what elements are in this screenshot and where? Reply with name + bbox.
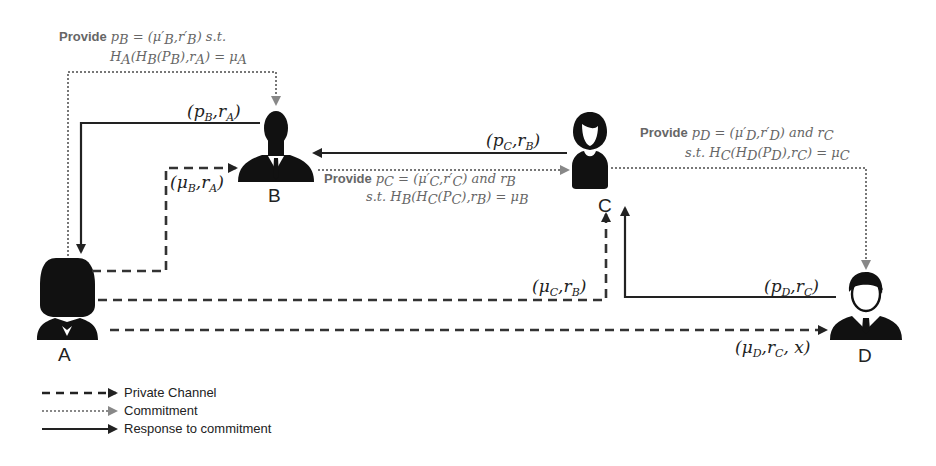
- actor-b-label: B: [268, 185, 281, 206]
- legend: Private Channel Commitment Response to c…: [42, 385, 272, 436]
- svg-text:Private Channel: Private Channel: [124, 385, 217, 400]
- response-d-to-c: [625, 208, 836, 297]
- svg-text:s.t. HB(HC(PC),rB) = μB: s.t. HB(HC(PC),rB) = μB: [366, 189, 529, 207]
- commitment-note-a-to-b: ProvidepB = (μ′B,r′B) s.t. HA(HB(PB),rA)…: [59, 29, 247, 67]
- svg-text:s.t. HC(HD(PD),rC) = μC: s.t. HC(HD(PD),rC) = μC: [685, 145, 850, 163]
- svg-text:Commitment: Commitment: [124, 403, 198, 418]
- legend-item-response: Response to commitment: [42, 421, 272, 436]
- person-icon: [572, 112, 608, 189]
- label-pc-rb: (pC,rB): [486, 130, 540, 153]
- commitment-note-b-to-c: ProvidepC = (μ′C,r′C) and rB s.t. HB(HC(…: [324, 171, 529, 207]
- legend-item-private-channel: Private Channel: [42, 385, 217, 400]
- label-muc-rb: (μC,rB): [532, 276, 586, 299]
- commitment-c-to-d: [611, 168, 866, 268]
- actor-d-label: D: [858, 345, 872, 366]
- businessman-icon: [238, 111, 314, 182]
- woman-icon: [37, 258, 98, 340]
- svg-text:ProvidepD = (μ′D,r′D) and rC: ProvidepD = (μ′D,r′D) and rC: [640, 125, 834, 143]
- actor-a-label: A: [58, 344, 71, 365]
- actor-b: B: [238, 111, 314, 206]
- private-a-to-c: [98, 214, 606, 300]
- svg-text:Response to commitment: Response to commitment: [124, 421, 272, 436]
- actor-d: D: [830, 272, 902, 366]
- commitment-a-to-b: [68, 72, 276, 256]
- label-mud-rc-x: (μD,rC, x): [735, 337, 811, 360]
- commitment-note-c-to-d: ProvidepD = (μ′D,r′D) and rC s.t. HC(HD(…: [640, 125, 850, 163]
- businessman-icon: [830, 272, 902, 340]
- label-pb-ra: (pB,rA): [187, 101, 241, 124]
- actor-a: A: [37, 258, 98, 365]
- actor-c-label: C: [598, 195, 612, 216]
- label-pd-rc: (pD,rC): [764, 276, 819, 299]
- svg-text:ProvidepB = (μ′B,r′B) s.t.: ProvidepB = (μ′B,r′B) s.t.: [59, 29, 226, 47]
- svg-text:HA(HB(PB),rA) = μA: HA(HB(PB),rA) = μA: [109, 49, 247, 67]
- actor-c: C: [572, 112, 612, 216]
- protocol-diagram: A B C D: [0, 0, 936, 466]
- legend-item-commitment: Commitment: [42, 403, 198, 418]
- label-mub-ra: (μB,rA): [170, 172, 224, 195]
- svg-text:ProvidepC = (μ′C,r′C) and rB: ProvidepC = (μ′C,r′C) and rB: [324, 171, 516, 189]
